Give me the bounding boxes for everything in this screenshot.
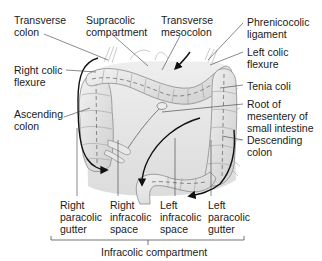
leader-right-colic-flexure — [66, 70, 96, 72]
leader-phrenicocolic — [208, 23, 243, 60]
ascending-colon-shape — [79, 74, 113, 172]
label-tenia-coli: Tenia coli — [247, 80, 291, 92]
diagram-stage: Transverse colon Supracolic compartment … — [0, 0, 322, 261]
label-right-colic-flexure: Right colic flexure — [14, 64, 62, 88]
label-phrenicocolic-ligament: Phrenicocolic ligament — [247, 16, 309, 40]
label-right-paracolic-gutter: Right paracolic gutter — [60, 199, 102, 235]
infracolic-bracket — [51, 236, 244, 245]
label-transverse-mesocolon: Transverse mesocolon — [161, 14, 213, 38]
label-descending-colon: Descending colon — [247, 134, 302, 158]
label-ascending-colon: Ascending colon — [14, 108, 63, 132]
leader-left-colic-flexure — [210, 52, 243, 65]
label-left-paracolic-gutter: Left paracolic gutter — [208, 199, 250, 235]
label-right-infracolic-space: Right infracolic space — [110, 199, 151, 235]
label-root-of-mesentery: Root of mesentery of small intestine — [247, 98, 314, 134]
leader-supracolic — [114, 36, 148, 66]
label-left-infracolic-space: Left infracolic space — [160, 199, 201, 235]
label-left-colic-flexure: Left colic flexure — [247, 46, 288, 70]
label-supracolic-compartment: Supracolic compartment — [86, 14, 147, 38]
label-infracolic-compartment: Infracolic compartment — [101, 246, 207, 258]
label-transverse-colon: Transverse colon — [14, 14, 66, 38]
